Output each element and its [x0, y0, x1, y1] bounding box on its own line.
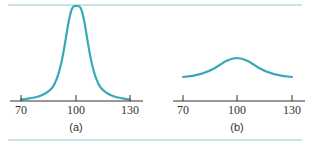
tick-label-a-100: 100: [67, 103, 85, 117]
tick-label-a-70: 70: [15, 103, 27, 117]
tick-label-b-100: 100: [228, 103, 246, 117]
figure: 70 100 130 (a) 70 100 130 (b): [0, 0, 316, 150]
panel-a: 70 100 130 (a): [10, 6, 143, 133]
tick-label-b-70: 70: [177, 103, 189, 117]
curve-b: [183, 58, 292, 77]
panel-b: 70 100 130 (b): [173, 58, 305, 133]
panel-label-b: (b): [230, 121, 243, 133]
curve-a: [21, 6, 130, 100]
tick-label-a-130: 130: [121, 103, 139, 117]
panel-label-a: (a): [69, 121, 82, 133]
tick-label-b-130: 130: [283, 103, 301, 117]
